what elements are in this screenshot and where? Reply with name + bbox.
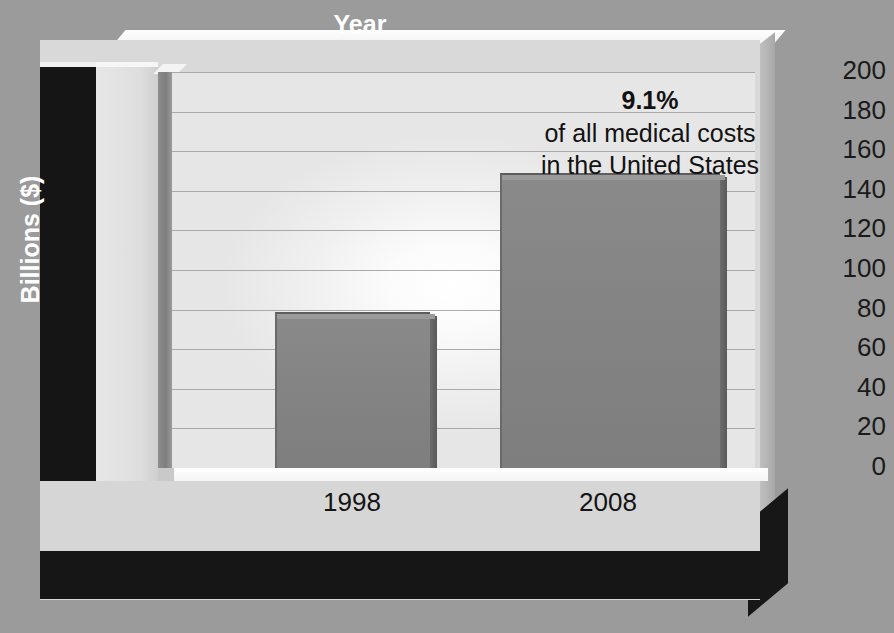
gridline (172, 72, 755, 73)
bar-top-cap-1998 (277, 314, 435, 319)
chart-annotation: 9.1% of all medical costs in the United … (470, 84, 830, 182)
plot-floor (158, 468, 768, 481)
y-tick-label: 40 (857, 374, 886, 400)
y-axis-band-bevel (40, 62, 96, 67)
y-tick-label: 160 (843, 136, 886, 162)
y-axis-wall (158, 72, 172, 470)
x-axis-title-band (40, 551, 760, 599)
y-tick-label: 20 (857, 413, 886, 439)
y-axis-title: Billions ($) (16, 0, 45, 490)
bar-2008[interactable] (500, 173, 720, 468)
x-tick-label-2008: 2008 (548, 487, 668, 518)
y-tick-label: 180 (843, 97, 886, 123)
y-tick-label: 140 (843, 176, 886, 202)
bar-side-2008 (720, 177, 727, 468)
plot-floor-corner (158, 468, 174, 481)
y-tick-label: 100 (843, 255, 886, 281)
x-tick-label-1998: 1998 (292, 487, 412, 518)
y-tick-label: 200 (843, 57, 886, 83)
y-axis-panel-bevel (96, 62, 158, 67)
annotation-line-2: in the United States (470, 149, 830, 182)
y-tick-label: 0 (872, 453, 886, 479)
annotation-line-1: of all medical costs (470, 117, 830, 150)
chart-canvas: Billions ($) 200180160140120100806040200… (0, 0, 894, 633)
y-tick-label: 120 (843, 215, 886, 241)
y-tick-label: 60 (857, 334, 886, 360)
bar-1998[interactable] (275, 312, 430, 468)
annotation-percent: 9.1% (470, 84, 830, 117)
x-axis-title: Year (0, 10, 720, 39)
y-tick-label: 80 (857, 295, 886, 321)
bar-side-1998 (430, 316, 437, 468)
